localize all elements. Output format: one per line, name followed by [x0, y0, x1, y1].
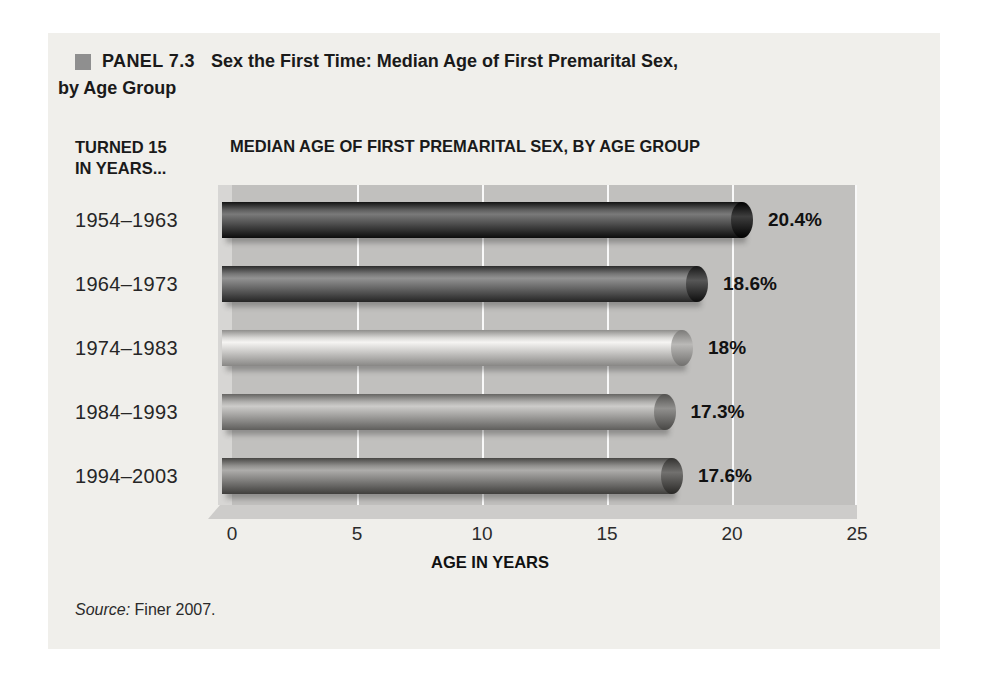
plot-floor-bevel: [208, 505, 857, 519]
x-tick-20: 20: [710, 523, 754, 545]
category-label-1994–2003: 1994–2003: [75, 458, 215, 494]
source-note: Source: Finer 2007.: [75, 601, 216, 619]
bar-value-label: 18.6%: [723, 266, 777, 302]
panel-number: PANEL 7.3: [102, 51, 195, 72]
x-tick-10: 10: [460, 523, 504, 545]
category-label-1954–1963: 1954–1963: [75, 202, 215, 238]
x-tick-25: 25: [835, 523, 879, 545]
panel-header-line1: PANEL 7.3 Sex the First Time: Median Age…: [75, 51, 915, 72]
bar-1994–2003: [222, 458, 672, 494]
bar-end-cap: [731, 202, 753, 238]
bar-end-cap: [671, 330, 693, 366]
bar-1954–1963: [222, 202, 742, 238]
bar-end-cap: [661, 458, 683, 494]
bar-value-label: 18%: [708, 330, 746, 366]
bar-end-cap: [654, 394, 676, 430]
category-label-1974–1983: 1974–1983: [75, 330, 215, 366]
yaxis-heading-line2: IN YEARS...: [75, 158, 167, 179]
yaxis-heading-line1: TURNED 15: [75, 137, 167, 158]
panel-title-line1: Sex the First Time: Median Age of First …: [211, 51, 678, 72]
x-tick-0: 0: [210, 523, 254, 545]
category-label-1984–1993: 1984–1993: [75, 394, 215, 430]
bar-1974–1983: [222, 330, 682, 366]
panel-title-line2: by Age Group: [58, 78, 915, 99]
yaxis-heading: TURNED 15 IN YEARS...: [75, 137, 167, 179]
plot-area: 20.4%18.6%18%17.3%17.6%: [218, 185, 857, 505]
x-axis-title: AGE IN YEARS: [360, 553, 620, 572]
bar-1984–1993: [222, 394, 665, 430]
x-tick-5: 5: [335, 523, 379, 545]
bar-value-label: 20.4%: [768, 202, 822, 238]
panel-header: PANEL 7.3 Sex the First Time: Median Age…: [75, 51, 915, 99]
figure-panel: PANEL 7.3 Sex the First Time: Median Age…: [48, 33, 940, 649]
bar-end-cap: [686, 266, 708, 302]
source-prefix: Source:: [75, 601, 130, 618]
square-bullet-icon: [75, 54, 91, 70]
gridline-25: [855, 185, 857, 505]
x-tick-15: 15: [585, 523, 629, 545]
category-label-1964–1973: 1964–1973: [75, 266, 215, 302]
page: PANEL 7.3 Sex the First Time: Median Age…: [0, 0, 987, 679]
bar-1964–1973: [222, 266, 697, 302]
chart-title: MEDIAN AGE OF FIRST PREMARITAL SEX, BY A…: [230, 137, 890, 156]
source-text: Finer 2007.: [130, 601, 215, 618]
bar-value-label: 17.3%: [691, 394, 745, 430]
bar-value-label: 17.6%: [698, 458, 752, 494]
